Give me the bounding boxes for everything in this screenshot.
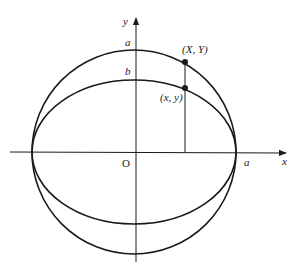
label-a-right: a [244, 156, 250, 168]
point-ellipse [182, 85, 188, 91]
diagram-canvas: y a b (X, Y) (x, y) O a x [0, 0, 300, 270]
label-point-circle: (X, Y) [182, 43, 208, 56]
origin-label: O [122, 157, 130, 169]
label-point-ellipse: (x, y) [160, 91, 183, 104]
point-circle [182, 59, 188, 65]
x-axis [10, 152, 286, 153]
label-b-top: b [125, 65, 131, 77]
x-axis-label: x [281, 155, 287, 167]
y-axis-label: y [122, 15, 128, 27]
label-a-top: a [125, 36, 131, 48]
